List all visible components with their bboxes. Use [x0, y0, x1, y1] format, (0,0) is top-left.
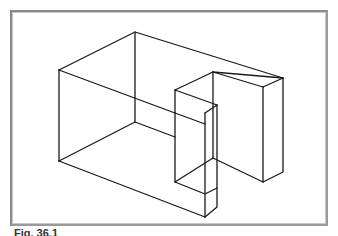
- notch-top-edge: [175, 90, 217, 105]
- right-block-top-left: [175, 72, 213, 90]
- bottom-front-edge: [59, 161, 205, 217]
- wireframe-drawing: [0, 0, 338, 236]
- notch-bottom: [175, 182, 217, 194]
- top-front-edge: [59, 70, 175, 113]
- top-back-edges: [59, 32, 283, 78]
- right-block-bottom: [213, 158, 263, 182]
- figure-caption: Fig. 36.1: [14, 227, 58, 236]
- notch-right-edges: [205, 105, 217, 217]
- bottom-back-edges: [59, 122, 175, 161]
- right-block-right-edges: [263, 78, 283, 182]
